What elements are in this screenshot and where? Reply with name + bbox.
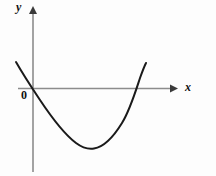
- origin-label: 0: [21, 89, 27, 101]
- parabola-curve: [16, 62, 146, 149]
- y-axis-arrow-icon: [29, 6, 37, 14]
- coordinate-plane-svg: [0, 0, 216, 176]
- x-axis-label: x: [185, 81, 191, 93]
- y-axis-label: y: [16, 1, 21, 13]
- graph-figure: y x 0: [0, 0, 216, 176]
- x-axis-arrow-icon: [170, 85, 178, 93]
